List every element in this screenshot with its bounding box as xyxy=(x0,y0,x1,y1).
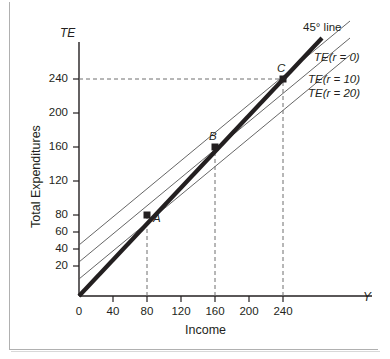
x-axis-title: Income xyxy=(185,324,226,337)
chart-figure: TE Y 240 200 160 120 80 60 40 20 0 40 80… xyxy=(0,0,390,359)
y-tick-label-40: 40 xyxy=(42,243,68,255)
point-label-c: C xyxy=(277,63,285,75)
y-axis-symbol-label: TE xyxy=(60,27,75,39)
y-tick-label-200: 200 xyxy=(42,107,68,119)
series-label-te-r0: TE(r = 0) xyxy=(314,52,360,64)
x-tick-label-80: 80 xyxy=(134,306,160,318)
x-tick-label-40: 40 xyxy=(100,306,126,318)
x-tick-label-200: 200 xyxy=(236,306,262,318)
point-marker-b xyxy=(212,144,219,151)
y-tick-label-120: 120 xyxy=(42,175,68,187)
point-label-b: B xyxy=(209,131,217,143)
x-tick-label-240: 240 xyxy=(270,306,296,318)
series-label-te-r10: TE(r = 10) xyxy=(308,74,360,86)
point-label-a: A xyxy=(153,213,161,225)
y-tick-label-240: 240 xyxy=(42,73,68,85)
series-label-te-r20: TE(r = 20) xyxy=(308,88,360,100)
x-tick-label-160: 160 xyxy=(202,306,228,318)
y-tick-label-80: 80 xyxy=(42,209,68,221)
x-axis-symbol-label: Y xyxy=(363,291,371,303)
x-tick-label-0: 0 xyxy=(66,306,92,318)
x-tick-label-120: 120 xyxy=(168,306,194,318)
y-tick-label-20: 20 xyxy=(42,260,68,272)
y-tick-label-60: 60 xyxy=(42,226,68,238)
y-axis-ticks xyxy=(73,79,79,266)
point-marker-a xyxy=(144,212,151,219)
y-tick-label-160: 160 xyxy=(42,141,68,153)
point-marker-c xyxy=(280,76,287,83)
x-axis-ticks xyxy=(113,296,283,302)
y-axis-title: Total Expenditures xyxy=(30,125,43,228)
series-label-45-degree: 45° line xyxy=(303,22,342,34)
